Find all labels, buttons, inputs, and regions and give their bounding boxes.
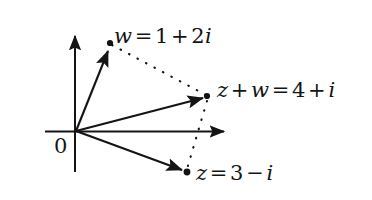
label-w-imag-coefficient: 2: [191, 24, 205, 48]
label-sum-plus-1: +: [228, 78, 251, 102]
label-sum-variable-w: w: [251, 78, 269, 102]
label-w-real: 1: [155, 24, 169, 48]
label-w-equals: =: [132, 24, 155, 48]
vector-z: [76, 131, 182, 170]
dotted-z-to-sum: [187, 101, 207, 169]
label-z-imaginary-unit: i: [266, 161, 273, 185]
label-w: w=1+2i: [114, 26, 212, 47]
label-z-real: 3: [230, 161, 244, 185]
dotted-w-to-sum: [112, 45, 206, 95]
label-z: z=3−i: [196, 163, 273, 184]
label-z-variable: z: [196, 161, 207, 185]
label-sum-real: 4: [292, 78, 306, 102]
label-w-plus: +: [169, 24, 192, 48]
label-sum-plus-2: +: [306, 78, 329, 102]
label-w-variable: w: [114, 24, 132, 48]
point-z-plus-w: [204, 93, 210, 99]
complex-plane-figure: w=1+2i z+w=4+i z=3−i 0: [0, 0, 372, 200]
vector-w: [76, 51, 108, 131]
label-sum-equals: =: [269, 78, 292, 102]
vector-z-plus-w: [76, 98, 203, 131]
label-z-equals: =: [207, 161, 230, 185]
label-sum-imaginary-unit: i: [328, 78, 335, 102]
label-w-imaginary-unit: i: [205, 24, 212, 48]
label-z-plus-w: z+w=4+i: [217, 80, 335, 101]
point-w: [107, 40, 113, 46]
origin-label: 0: [54, 136, 68, 157]
label-z-minus: −: [244, 161, 267, 185]
label-sum-variable-z: z: [217, 78, 228, 102]
point-z: [184, 169, 191, 176]
